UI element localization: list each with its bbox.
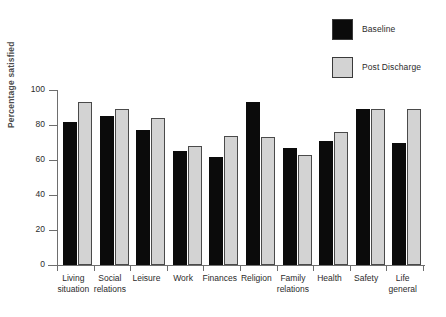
bar-post-discharge [151, 118, 165, 265]
baseline-swatch [332, 19, 353, 40]
legend-label-baseline: Baseline [362, 24, 395, 34]
bar-group [319, 90, 348, 265]
y-tick-40: 40 [49, 195, 57, 196]
bar-baseline [246, 102, 260, 265]
y-tick-label-40: 40 [36, 189, 45, 199]
x-axis-label: Social relations [91, 273, 130, 295]
bar-baseline [136, 130, 150, 265]
post-discharge-swatch [332, 57, 353, 78]
bar-group [63, 90, 92, 265]
y-tick-20: 20 [49, 230, 57, 231]
bar-post-discharge [334, 132, 348, 265]
y-tick-label-0: 0 [40, 259, 45, 269]
y-tick-80: 80 [49, 125, 57, 126]
bar-baseline [356, 109, 370, 265]
x-axis-label: Health [310, 273, 349, 284]
bar-baseline [100, 116, 114, 265]
bar-post-discharge [78, 102, 92, 265]
plot-area: 020406080100 [57, 90, 425, 266]
bar-group [246, 90, 275, 265]
x-tick [313, 265, 314, 271]
y-tick-label-60: 60 [36, 154, 45, 164]
bar-group [209, 90, 238, 265]
x-tick [277, 265, 278, 271]
x-axis-label: Leisure [127, 273, 166, 284]
bar-post-discharge [115, 109, 129, 265]
y-tick-100: 100 [49, 90, 57, 91]
legend-item-post-discharge: Post Discharge [332, 54, 442, 80]
x-tick [240, 265, 241, 271]
x-tick [350, 265, 351, 271]
bar-group [283, 90, 312, 265]
x-axis-label: Work [164, 273, 203, 284]
bar-baseline [392, 143, 406, 266]
x-tick [57, 265, 58, 271]
y-tick-label-20: 20 [36, 224, 45, 234]
x-axis-label: Family relations [274, 273, 313, 295]
x-tick [130, 265, 131, 271]
bar-baseline [319, 141, 333, 265]
bar-group [100, 90, 129, 265]
bar-groups [58, 90, 425, 265]
bar-post-discharge [298, 155, 312, 265]
y-tick-60: 60 [49, 160, 57, 161]
bar-group [136, 90, 165, 265]
x-axis-label: Religion [237, 273, 276, 284]
y-axis-title: Percentage satisfied [6, 114, 16, 128]
bar-group [392, 90, 421, 265]
x-axis-label: Life general [383, 273, 422, 295]
x-axis-label: Safety [347, 273, 386, 284]
bar-group [356, 90, 385, 265]
x-tick [386, 265, 387, 271]
bar-post-discharge [261, 137, 275, 265]
x-tick [94, 265, 95, 271]
x-axis-line [48, 265, 425, 266]
bar-post-discharge [407, 109, 421, 265]
x-tick [167, 265, 168, 271]
bar-post-discharge [224, 136, 238, 266]
legend-label-post-discharge: Post Discharge [362, 62, 421, 72]
bar-post-discharge [188, 146, 202, 265]
bar-baseline [209, 157, 223, 266]
x-axis-label: Living situation [54, 273, 93, 295]
bar-post-discharge [371, 109, 385, 265]
x-tick [203, 265, 204, 271]
legend-item-baseline: Baseline [332, 16, 442, 42]
bar-baseline [283, 148, 297, 265]
bar-baseline [63, 122, 77, 266]
x-tick [423, 265, 424, 271]
bar-baseline [173, 151, 187, 265]
x-axis-label: Finances [200, 273, 239, 284]
bar-group [173, 90, 202, 265]
x-axis-labels: Living situationSocial relationsLeisureW… [57, 273, 437, 313]
y-tick-label-80: 80 [36, 119, 45, 129]
y-tick-0: 0 [49, 265, 57, 266]
y-tick-label-100: 100 [31, 84, 45, 94]
chart-legend: Baseline Post Discharge [332, 16, 442, 92]
